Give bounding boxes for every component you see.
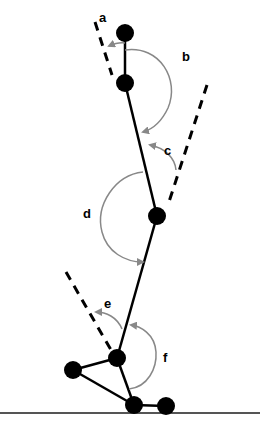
joint-neck: [116, 74, 134, 92]
segment-heel-toe: [73, 370, 134, 405]
arc-b: [125, 50, 171, 132]
joints: [64, 24, 175, 415]
segment-trunk: [125, 83, 157, 216]
arc-f: [129, 325, 156, 389]
joint-toe-base: [125, 396, 143, 414]
label-a: a: [99, 10, 107, 25]
joint-head: [116, 24, 134, 42]
joint-hip: [148, 207, 166, 225]
label-f: f: [163, 350, 168, 365]
joint-angle-diagram: a b c d e f: [0, 0, 260, 423]
dashed-line-c: [168, 85, 207, 205]
label-c: c: [164, 143, 171, 158]
label-d: d: [83, 206, 91, 221]
joint-ankle: [108, 349, 126, 367]
arc-c: [150, 145, 176, 170]
joint-heel: [64, 361, 82, 379]
label-e: e: [104, 296, 111, 311]
label-b: b: [182, 49, 190, 64]
dashed-line-a: [95, 22, 112, 75]
arc-d: [101, 172, 143, 262]
joint-toe-tip: [157, 397, 175, 415]
arc-a: [109, 43, 125, 46]
dashed-line-e: [66, 272, 111, 350]
arc-e: [96, 312, 122, 329]
